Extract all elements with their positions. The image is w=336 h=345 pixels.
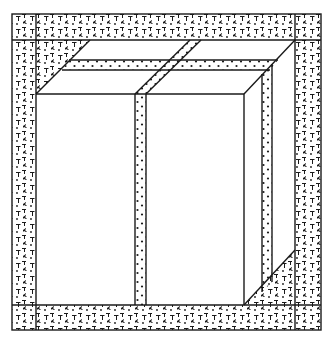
packing-box-diagram xyxy=(0,0,336,345)
tape-strips xyxy=(62,40,278,305)
